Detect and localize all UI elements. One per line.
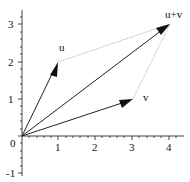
vector-addition-diagram: u v u+v 0 1 2 3 4 1 2 3 -1: [0, 0, 190, 182]
y-ticks: [18, 17, 22, 173]
x-tick-label-0: 0: [10, 138, 16, 149]
x-ticks: [29, 136, 176, 140]
plot-canvas: [0, 0, 190, 182]
y-tick-label-3: 3: [8, 19, 14, 30]
vector-u-plus-v: [22, 24, 170, 136]
label-v: v: [143, 92, 149, 103]
label-u-plus-v: u+v: [165, 9, 182, 20]
x-tick-label-3: 3: [129, 142, 135, 153]
y-tick-label-1: 1: [8, 94, 14, 105]
x-tick-label-1: 1: [55, 142, 61, 153]
guide-u-to-sum: [58, 24, 170, 62]
label-u: u: [59, 42, 65, 53]
guide-v-to-sum: [133, 24, 170, 99]
y-tick-label-2: 2: [8, 57, 14, 68]
y-tick-label-neg1: -1: [6, 168, 15, 179]
x-tick-label-2: 2: [92, 142, 98, 153]
vector-u: [22, 62, 58, 136]
vector-v: [22, 99, 133, 136]
x-tick-label-4: 4: [166, 142, 172, 153]
